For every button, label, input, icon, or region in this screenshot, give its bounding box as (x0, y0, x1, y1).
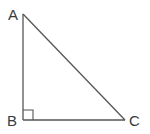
diagram-canvas: A B C (0, 0, 150, 134)
right-angle-marker (23, 110, 33, 120)
vertex-label-c: C (129, 112, 140, 129)
vertex-label-a: A (8, 6, 18, 23)
side-ac-hypotenuse (23, 14, 125, 120)
right-triangle-diagram: A B C (0, 0, 150, 134)
vertex-label-b: B (7, 112, 17, 129)
